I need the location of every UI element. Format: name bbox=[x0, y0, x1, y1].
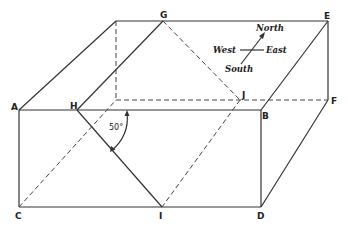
edge-HG bbox=[77, 21, 163, 110]
compass: North West East South bbox=[213, 23, 287, 74]
vertex-label-G: G bbox=[160, 10, 167, 20]
compass-west: West bbox=[213, 45, 236, 55]
vertex-label-I: I bbox=[159, 211, 162, 221]
vertex-label-C: C bbox=[15, 211, 22, 221]
box-diagram: 50° North West East South A B C D E F G … bbox=[0, 0, 348, 230]
vertex-labels: A B C D E F G H I J bbox=[11, 10, 337, 221]
compass-south: South bbox=[225, 64, 253, 74]
compass-north: North bbox=[255, 23, 284, 33]
arrowhead-icon bbox=[125, 110, 130, 116]
vertex-label-H: H bbox=[70, 101, 78, 111]
compass-east: East bbox=[265, 45, 287, 55]
vertex-label-J: J bbox=[241, 90, 245, 100]
hidden-edge-C-back bbox=[19, 100, 116, 207]
vertex-label-E: E bbox=[324, 11, 330, 21]
hidden-edge-JI bbox=[162, 100, 240, 207]
hidden-edge-GJ bbox=[163, 21, 240, 100]
vertex-label-D: D bbox=[257, 211, 264, 221]
edge-DF bbox=[261, 100, 328, 207]
north-arrow-icon bbox=[259, 32, 265, 39]
compass-north-arrow bbox=[241, 34, 264, 64]
angle-marker: 50° bbox=[109, 110, 130, 152]
vertex-label-A: A bbox=[11, 102, 18, 112]
edge-BE bbox=[261, 21, 328, 110]
vertex-label-B: B bbox=[262, 111, 269, 121]
angle-label: 50° bbox=[109, 123, 123, 132]
vertex-label-F: F bbox=[331, 96, 337, 106]
edge-A-topback bbox=[19, 21, 116, 110]
